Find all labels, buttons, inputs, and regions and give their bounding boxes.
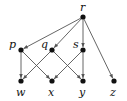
edge-r-z [84, 19, 113, 78]
node-label-r: r [80, 1, 86, 14]
node-z [111, 78, 116, 83]
node-y [80, 78, 85, 83]
edges-group [21, 18, 113, 79]
node-label-q: q [41, 38, 48, 51]
node-x [49, 78, 54, 83]
node-label-p: p [9, 38, 16, 51]
node-p [18, 47, 23, 52]
node-label-x: x [48, 86, 55, 99]
node-label-s: s [73, 38, 79, 51]
node-q [49, 47, 54, 52]
directed-graph: rpqswxyz [0, 0, 127, 101]
node-s [80, 47, 85, 52]
node-label-z: z [109, 86, 116, 99]
labels-group: rpqswxyz [9, 1, 116, 99]
node-label-y: y [78, 86, 86, 99]
node-r [80, 14, 85, 19]
node-w [18, 78, 23, 83]
node-label-w: w [16, 86, 26, 99]
